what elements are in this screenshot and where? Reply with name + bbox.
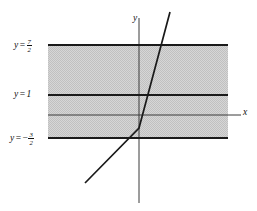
label-bottom-minus-sign: − xyxy=(23,134,28,144)
fraction-denominator: 2 xyxy=(28,139,33,146)
label-bottom-equals: = xyxy=(16,134,21,144)
y-axis-label: y xyxy=(133,14,137,24)
label-y-equals-negative-three-halves: y = − 3 2 xyxy=(10,131,34,147)
fraction-seven-halves: 7 2 xyxy=(27,38,32,54)
label-y-equals-one: y = 1 xyxy=(14,90,31,100)
graph-svg xyxy=(0,0,257,211)
fraction-numerator: 3 xyxy=(28,131,33,138)
label-top-lhs: y xyxy=(14,41,18,51)
figure-canvas: y = 7 2 y = 1 y = − 3 2 y x xyxy=(0,0,257,211)
label-y-equals-seven-halves: y = 7 2 xyxy=(14,38,32,54)
label-top-equals: = xyxy=(20,41,25,51)
label-middle-lhs: y xyxy=(14,90,18,100)
shaded-region xyxy=(48,45,228,138)
fraction-numerator: 7 xyxy=(27,38,32,45)
fraction-three-halves: 3 2 xyxy=(28,131,33,147)
fraction-denominator: 2 xyxy=(27,46,32,53)
label-middle-equals: = xyxy=(20,90,25,100)
label-middle-value: 1 xyxy=(27,90,32,100)
x-axis-label: x xyxy=(243,108,247,118)
label-bottom-lhs: y xyxy=(10,134,14,144)
